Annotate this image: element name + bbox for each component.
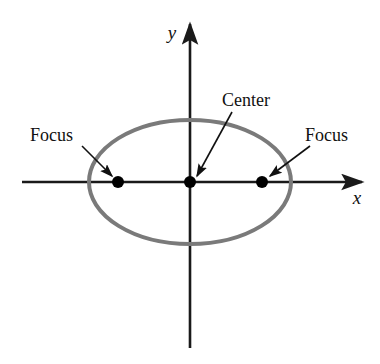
focus-left-leader-line	[82, 146, 112, 176]
right-focus-point	[256, 176, 268, 188]
center-point	[184, 176, 196, 188]
left-focus-point	[112, 176, 124, 188]
focus-right-label: Focus	[305, 125, 348, 145]
focus-left-label: Focus	[30, 125, 73, 145]
ellipse-diagram: Focus Center Focus y x	[0, 0, 380, 364]
x-axis-label: x	[352, 187, 362, 208]
center-label: Center	[222, 90, 270, 110]
y-axis-label: y	[166, 22, 177, 43]
